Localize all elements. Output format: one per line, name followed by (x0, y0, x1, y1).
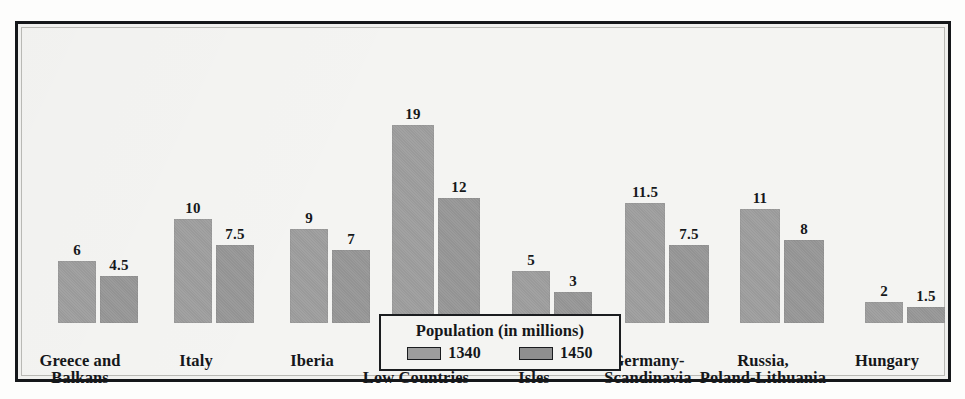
category-label-line2: Balkans (40, 369, 121, 386)
bar-1450[interactable]: 1.5 (907, 307, 945, 323)
category-label: Russia,Poland-Lithuania (700, 352, 826, 386)
bar-group: 21.5 (865, 28, 945, 375)
bar-value-label: 8 (800, 221, 808, 238)
category-label-line2: Poland-Lithuania (700, 369, 826, 386)
bar-value-label: 2 (880, 283, 888, 300)
legend-label-1340: 1340 (448, 344, 481, 362)
bar-1450[interactable]: 4.5 (100, 276, 138, 323)
category-label-line1: Italy (179, 351, 213, 370)
category-label-line2: Low Countries (363, 369, 469, 386)
bar-1450[interactable]: 7.5 (216, 245, 254, 323)
bar-1340[interactable]: 11.5 (625, 203, 665, 323)
legend-title: Population (in millions) (391, 321, 609, 341)
bar-1450[interactable]: 7.5 (669, 245, 709, 323)
chart-page: 64.5Greece andBalkans107.5Italy97Iberia1… (0, 0, 965, 399)
bar-value-label: 3 (569, 273, 577, 290)
category-label: Greece andBalkans (40, 352, 121, 386)
bar-value-label: 4.5 (109, 257, 128, 274)
bar-group: 11.57.5 (625, 28, 709, 375)
bar-1450[interactable]: 8 (784, 240, 824, 323)
chart-frame-inner: 64.5Greece andBalkans107.5Italy97Iberia1… (21, 27, 945, 376)
bar-value-label: 7.5 (225, 226, 244, 243)
category-label-line1: Hungary (855, 351, 919, 370)
bar-value-label: 11 (753, 190, 768, 207)
category-label: Italy (179, 352, 213, 369)
chart-frame: 64.5Greece andBalkans107.5Italy97Iberia1… (15, 21, 951, 382)
bar-1340[interactable]: 6 (58, 261, 96, 323)
bar-value-label: 10 (185, 200, 200, 217)
legend-item-1340[interactable]: 1340 (407, 344, 481, 362)
bar-value-label: 9 (305, 210, 313, 227)
legend-items: 1340 1450 (391, 344, 609, 362)
bar-value-label: 1.5 (916, 288, 935, 305)
bar-value-label: 7 (347, 231, 355, 248)
legend-swatch-1450 (519, 347, 553, 360)
bar-1340[interactable]: 2 (865, 302, 903, 323)
category-label: Iberia (290, 352, 334, 369)
bar-1340[interactable]: 10 (174, 219, 212, 323)
bar-group: 64.5 (58, 28, 138, 375)
legend-label-1450: 1450 (560, 344, 593, 362)
bar-value-label: 19 (405, 106, 420, 123)
bar-1340[interactable]: 9 (290, 229, 328, 323)
bar-group: 97 (290, 28, 370, 375)
legend-item-1450[interactable]: 1450 (519, 344, 593, 362)
bar-value-label: 7.5 (679, 226, 698, 243)
category-label-line2: Isles (509, 369, 558, 386)
bar-group: 118 (740, 28, 824, 375)
bar-group: 107.5 (174, 28, 254, 375)
bar-1340[interactable]: 11 (740, 209, 780, 323)
bar-value-label: 12 (451, 179, 466, 196)
category-label-line1: Iberia (290, 351, 334, 370)
bar-value-label: 5 (527, 252, 535, 269)
category-label: Hungary (855, 352, 919, 369)
legend-swatch-1340 (407, 347, 441, 360)
bar-value-label: 11.5 (632, 184, 658, 201)
bar-value-label: 6 (73, 242, 81, 259)
bar-1450[interactable]: 12 (438, 198, 480, 323)
bar-1450[interactable]: 7 (332, 250, 370, 323)
bar-1340[interactable]: 19 (392, 125, 434, 323)
category-label-line2: Scandinavia (604, 369, 691, 386)
chart-legend: Population (in millions) 1340 1450 (379, 314, 621, 371)
